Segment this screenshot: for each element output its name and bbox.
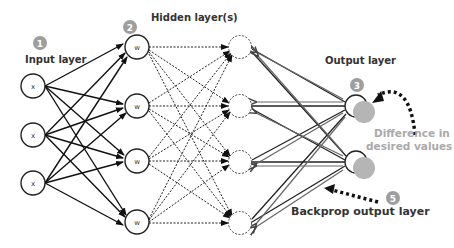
weight-node-label: w bbox=[134, 158, 140, 166]
neural-network-diagram: x x x w w w w bbox=[0, 0, 454, 248]
output-layer-nodes bbox=[345, 95, 375, 179]
weight-node-label: w bbox=[134, 103, 140, 111]
output-node bbox=[345, 151, 375, 179]
hidden-layer-2-nodes bbox=[229, 36, 252, 235]
svg-text:1: 1 bbox=[37, 39, 43, 49]
input-layer-label: Input layer bbox=[25, 54, 87, 65]
weight-node: w bbox=[125, 149, 149, 173]
step-badge: 3 bbox=[350, 78, 364, 92]
weight-node-label: w bbox=[134, 219, 140, 227]
input-layer-nodes: x x x bbox=[21, 74, 45, 195]
hidden-layer-1-nodes: w w w w bbox=[125, 35, 149, 234]
weight-node: w bbox=[125, 94, 149, 118]
step-badge: 2 bbox=[123, 20, 137, 34]
svg-text:5: 5 bbox=[390, 194, 396, 204]
input-node: x bbox=[21, 171, 45, 195]
hidden-node bbox=[229, 95, 252, 118]
input-to-hidden1-connections bbox=[45, 44, 127, 225]
hidden-node bbox=[229, 212, 252, 235]
input-node-label: x bbox=[31, 83, 35, 91]
difference-label-line2: desired values bbox=[366, 140, 452, 152]
weight-node: w bbox=[125, 210, 149, 234]
hidden-node bbox=[229, 36, 252, 59]
input-node: x bbox=[21, 74, 45, 98]
input-node-label: x bbox=[31, 132, 35, 140]
hidden-layers-label: Hidden layer(s) bbox=[151, 12, 238, 23]
backprop-arrow bbox=[324, 184, 378, 202]
backprop-label: Backprop output layer bbox=[291, 205, 430, 218]
output-node bbox=[345, 95, 375, 123]
difference-label-line1: Difference in bbox=[374, 127, 450, 139]
weight-node-label: w bbox=[134, 44, 140, 52]
step-badge: 5 bbox=[386, 191, 400, 205]
svg-text:2: 2 bbox=[127, 23, 133, 33]
svg-text:3: 3 bbox=[354, 81, 360, 91]
output-layer-label: Output layer bbox=[325, 55, 396, 66]
hidden2-to-output-connections bbox=[252, 49, 346, 227]
input-node: x bbox=[21, 123, 45, 147]
step-badge: 1 bbox=[33, 36, 47, 50]
hidden-node bbox=[229, 151, 252, 174]
weight-node: w bbox=[125, 35, 149, 59]
hidden1-to-hidden2-connections bbox=[149, 47, 232, 223]
input-node-label: x bbox=[31, 180, 35, 188]
